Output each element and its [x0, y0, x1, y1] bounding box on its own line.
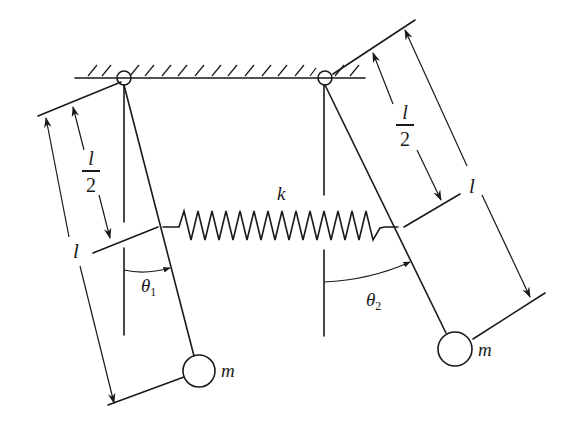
left-pendulum — [117, 71, 215, 387]
right-mass-label: m — [478, 340, 492, 359]
fraction-bar — [82, 170, 100, 172]
spring-constant-label: k — [277, 184, 285, 203]
right-length-label: l — [469, 176, 475, 197]
left-length-label: l — [73, 241, 79, 262]
theta-symbol: θ — [141, 275, 150, 296]
theta-subscript: 1 — [150, 285, 156, 299]
coupled-pendulum-diagram: k m m l l l 2 l 2 θ1 θ2 — [0, 0, 573, 423]
right-half-length-label: l 2 — [394, 102, 416, 149]
right-top-extension — [333, 20, 415, 74]
left-top-extension — [38, 82, 121, 116]
right-rod — [325, 85, 446, 333]
spring — [163, 211, 398, 240]
left-bottom-extension — [108, 377, 184, 405]
right-mass — [438, 332, 472, 366]
theta2-label: θ2 — [366, 290, 381, 312]
left-dimensions — [38, 82, 184, 405]
theta1-arc — [124, 268, 170, 272]
fraction-bar — [396, 124, 414, 126]
left-half-length-label: l 2 — [80, 148, 102, 195]
fraction-numerator: l — [80, 148, 102, 168]
theta2-arc — [324, 262, 410, 282]
fraction-numerator: l — [394, 102, 416, 122]
left-mid-extension — [93, 227, 158, 253]
theta-subscript: 2 — [375, 299, 381, 313]
fraction-denominator: 2 — [394, 129, 416, 149]
fraction-denominator: 2 — [80, 175, 102, 195]
right-bottom-extension — [473, 293, 545, 339]
left-mass-label: m — [221, 361, 235, 380]
left-mass — [183, 355, 215, 387]
theta1-label: θ1 — [141, 276, 156, 298]
theta-symbol: θ — [366, 289, 375, 310]
right-mid-extension — [404, 194, 460, 227]
right-dimensions — [333, 20, 545, 339]
left-rod — [124, 85, 194, 356]
